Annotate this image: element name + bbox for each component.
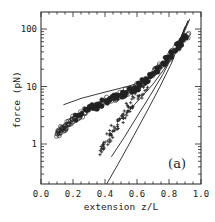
x-tick-label-0.4: 0.4: [97, 189, 113, 199]
y-tick-label-1: 1: [32, 139, 37, 149]
x-tick-label-0.8: 0.8: [161, 189, 177, 199]
data-point-cross: [110, 124, 113, 127]
panel-label: (a): [168, 156, 186, 171]
data-point-cross: [98, 153, 101, 156]
data-point-cross: [108, 129, 111, 132]
x-tick-label-0.0: 0.0: [33, 189, 49, 199]
data-point-cross: [123, 109, 126, 112]
y-axis-label: force (pN): [11, 71, 22, 128]
y-tick-label-100: 100: [21, 24, 37, 34]
y-tick-label-10: 10: [26, 82, 37, 92]
data-point-cross: [106, 143, 109, 146]
x-tick-label-1.0: 1.0: [193, 189, 209, 199]
fit-curve: [111, 21, 188, 157]
x-axis-label: extension z/L: [84, 201, 159, 212]
data-point-cross: [122, 121, 125, 124]
x-tick-label-0.6: 0.6: [129, 189, 145, 199]
force-extension-chart: 100 10 1 0.0 0.2 0.4 0.6 0.8 1.0 extensi…: [0, 0, 215, 222]
x-tick-label-0.2: 0.2: [65, 189, 81, 199]
data-point-cross: [129, 101, 132, 104]
